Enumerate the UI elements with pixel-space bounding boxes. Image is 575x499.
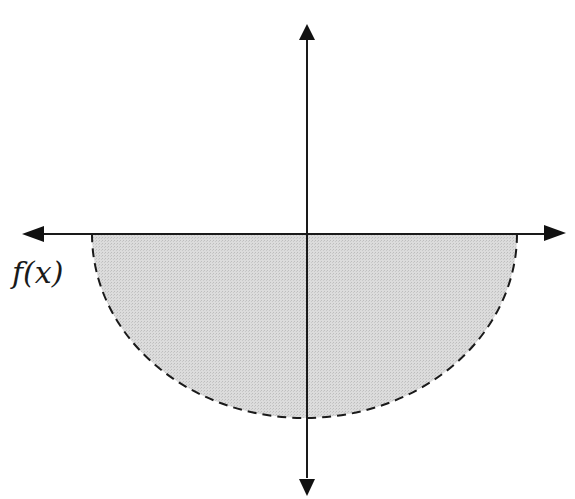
x-axis-left-arrow-icon [22, 226, 44, 242]
y-axis-down-arrow-icon [299, 479, 315, 496]
function-label: f(x) [10, 255, 63, 290]
y-axis-up-arrow-icon [299, 24, 315, 40]
shaded-region [92, 234, 517, 418]
function-diagram: f(x) [0, 0, 575, 499]
x-axis-right-arrow-icon [544, 225, 566, 241]
